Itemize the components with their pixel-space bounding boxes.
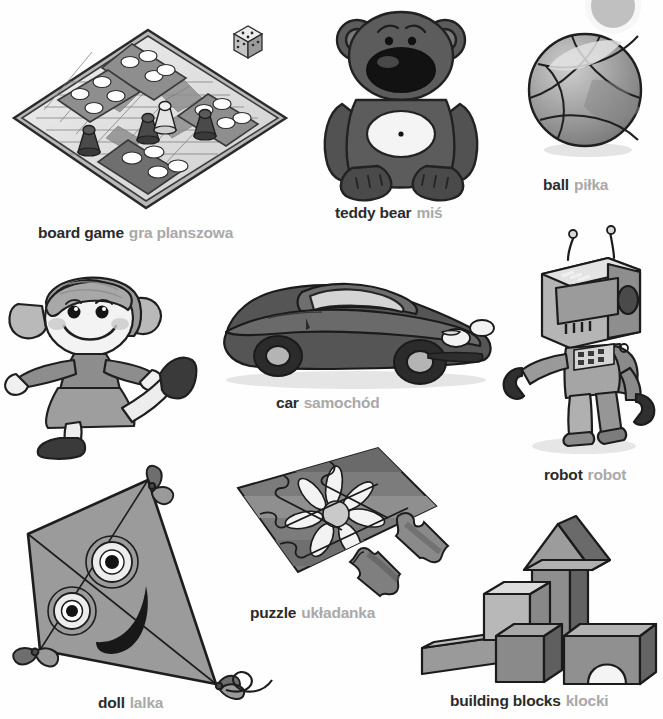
sports-car-icon <box>206 272 502 392</box>
label-puzzle: puzzleukładanka <box>250 604 375 622</box>
label-board-game: board gamegra planszowa <box>38 224 233 242</box>
label-ball: ballpiłka <box>543 176 608 194</box>
label-en: board game <box>38 224 124 241</box>
label-pl: samochód <box>304 394 380 411</box>
teddy-bear-icon <box>312 8 492 204</box>
picture-dictionary-page: board gamegra planszowa <box>0 0 663 719</box>
label-pl: klocki <box>566 692 609 709</box>
ball-icon <box>522 28 652 160</box>
label-pl: gra planszowa <box>129 224 233 241</box>
label-building-blocks: building blocksklocki <box>450 692 608 710</box>
ludo-board-icon <box>0 8 300 208</box>
kite-icon <box>0 462 260 708</box>
label-en: robot <box>544 466 583 483</box>
label-pl: układanka <box>301 604 375 621</box>
doll-icon <box>2 268 202 430</box>
building-blocks-icon <box>412 512 662 690</box>
label-teddy-bear: teddy bearmiś <box>335 204 443 222</box>
label-robot: robotrobot <box>544 466 626 484</box>
label-en: teddy bear <box>335 204 411 221</box>
label-en: ball <box>543 176 569 193</box>
label-pl: piłka <box>574 176 608 193</box>
label-en: puzzle <box>250 604 296 621</box>
label-car: carsamochód <box>276 394 380 412</box>
label-pl: miś <box>416 204 442 221</box>
label-pl: robot <box>588 466 627 483</box>
die-icon <box>234 26 262 58</box>
label-en: building blocks <box>450 692 561 709</box>
label-en: car <box>276 394 299 411</box>
page-corner-marker <box>591 0 635 28</box>
robot-icon <box>500 228 663 460</box>
